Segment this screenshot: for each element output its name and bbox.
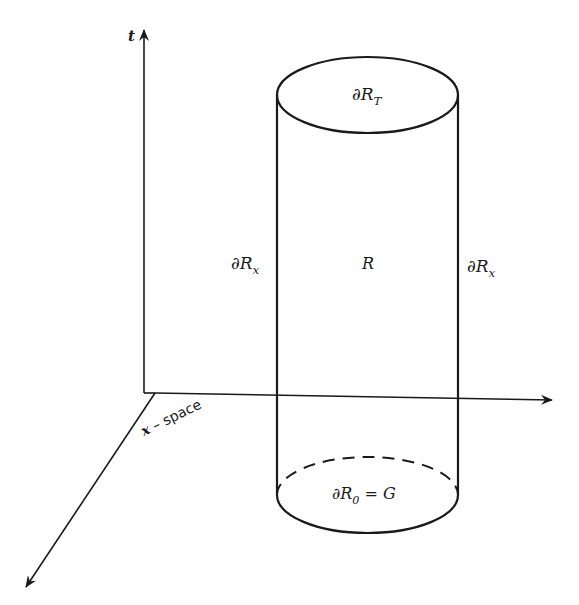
- initial-boundary-label: ∂R0 = G: [332, 486, 396, 506]
- x-space-axis: [26, 393, 155, 587]
- t-axis-label: t: [128, 29, 135, 44]
- top-boundary-label: ∂RT: [352, 86, 382, 108]
- top-boundary-symbol: ∂R: [352, 84, 374, 104]
- space-time-diagram: t ∂RT ∂Rx R ∂Rx ∂R0 = G x – space: [0, 0, 579, 605]
- diagram-lines: [0, 0, 579, 605]
- left-side-symbol: ∂R: [231, 253, 253, 273]
- top-boundary-subscript: T: [374, 94, 382, 108]
- initial-boundary-equals-g: = G: [359, 484, 395, 503]
- initial-boundary-symbol: ∂R: [332, 484, 352, 503]
- right-side-boundary-label: ∂Rx: [467, 258, 495, 280]
- horizontal-axis: [155, 393, 552, 400]
- right-side-subscript: x: [489, 266, 496, 280]
- left-side-subscript: x: [253, 263, 260, 277]
- left-side-boundary-label: ∂Rx: [231, 255, 259, 277]
- region-label: R: [362, 256, 374, 272]
- right-side-symbol: ∂R: [467, 256, 489, 276]
